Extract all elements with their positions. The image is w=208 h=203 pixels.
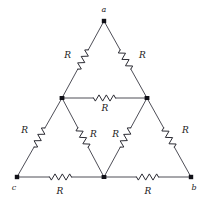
wire-r-ml-c-lead-b — [17, 147, 34, 177]
resistor-symbol-r-a-mr — [118, 50, 132, 69]
resistor-labels: RRRRRRRRR — [20, 50, 189, 196]
resistor-symbol-r-ml-mr — [94, 95, 116, 101]
resistor-symbol-r-c-mb — [50, 174, 72, 180]
resistor-label-r-mr-b: R — [181, 125, 189, 135]
wire-r-ml-c-lead-a — [45, 98, 62, 128]
node-label-c: c — [12, 183, 17, 192]
resistor-symbol-r-mr-mb — [120, 128, 131, 147]
resistor-label-r-a-mr: R — [138, 50, 146, 60]
resistor-symbol-r-a-ml — [78, 50, 89, 69]
wire-r-mr-mb-lead-b — [104, 147, 120, 177]
wire-r-a-ml-lead-a — [88, 21, 104, 50]
resistor-symbol-r-ml-mb — [76, 128, 90, 147]
resistor-label-r-ml-c: R — [20, 125, 28, 135]
wire-r-a-mr-lead-b — [131, 69, 147, 98]
resistor-label-r-ml-mr: R — [101, 103, 109, 113]
node-dot-mb — [102, 175, 107, 179]
circuit-figure: RRRRRRRRR acb — [0, 0, 208, 203]
resistor-symbol-r-mb-b — [137, 174, 159, 180]
wire-r-a-ml-lead-b — [62, 69, 78, 98]
node-label-a: a — [102, 5, 107, 14]
node-dot-b — [189, 175, 193, 179]
node-dot-ml — [60, 96, 65, 100]
wire-r-a-mr-lead-a — [104, 21, 120, 50]
node-dot-mr — [145, 96, 150, 100]
node-dot-c — [15, 175, 19, 179]
resistor-label-r-ml-mb: R — [89, 129, 97, 139]
resistor-label-r-c-mb: R — [56, 186, 64, 196]
resistor-label-r-a-ml: R — [63, 50, 71, 60]
wire-r-mr-mb-lead-a — [131, 98, 147, 128]
resistor-label-r-mr-mb: R — [111, 129, 119, 139]
circuit-diagram: RRRRRRRRR acb — [0, 0, 208, 203]
resistor-symbol-r-mr-b — [162, 128, 176, 147]
wire-r-mr-b-lead-a — [147, 98, 164, 128]
resistor-label-r-mb-b: R — [144, 186, 152, 196]
wire-r-mr-b-lead-b — [174, 147, 191, 177]
node-label-b: b — [191, 183, 196, 192]
resistor-layer — [34, 50, 176, 180]
wire-r-ml-mb-lead-a — [62, 98, 78, 128]
resistor-symbol-r-ml-c — [34, 128, 45, 147]
wire-r-ml-mb-lead-b — [88, 147, 104, 177]
node-dot-a — [102, 19, 106, 23]
